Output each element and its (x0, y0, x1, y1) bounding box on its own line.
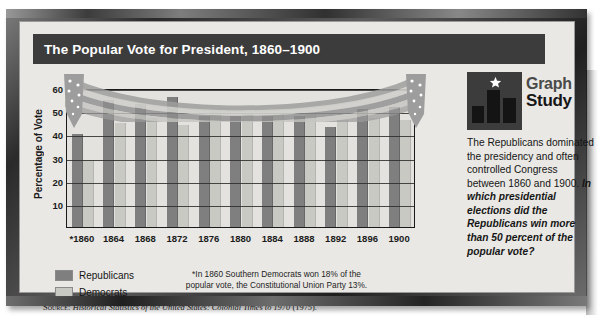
legend-item-democrats: Democrats (55, 285, 165, 299)
logo-bar-3 (503, 98, 516, 123)
bar-democrats-1892 (337, 120, 348, 227)
bar-group-1880 (230, 90, 252, 227)
y-tick-20: 20 (47, 176, 63, 187)
bar-democrats-1900 (400, 120, 411, 227)
sidebar-question-text: In which presidential elections did the … (467, 178, 591, 257)
bar-group-1888 (294, 90, 316, 227)
sidebar-body-text: The Republicans dominated the presidency… (467, 137, 594, 189)
logo-bar-1 (472, 106, 484, 123)
y-axis-label: Percentage of Vote (31, 94, 45, 214)
bar-republicans-1860 (72, 134, 83, 227)
x-label-1872: 1872 (166, 233, 187, 244)
legend-label-democrats: Democrats (79, 287, 127, 298)
legend-swatch-republicans (55, 270, 73, 281)
bar-republicans-1884 (262, 116, 273, 227)
bar-group-1884 (262, 90, 284, 227)
legend-swatch-democrats (55, 287, 73, 298)
bar-democrats-1888 (305, 113, 316, 227)
source-line: Source: Historical Statistics of the Uni… (43, 302, 443, 312)
x-label-1888: 1888 (293, 233, 314, 244)
footnote-line-1: *In 1860 Southern Democrats won 18% of t… (192, 269, 361, 279)
logo-icon-box (467, 72, 522, 130)
bar-republicans-1872 (167, 97, 178, 227)
page-surface: The Popular Vote for President, 1860–190… (19, 21, 575, 293)
bar-republicans-1888 (294, 116, 305, 227)
plot-area (66, 89, 415, 228)
bar-group-1876 (199, 90, 221, 227)
bar-republicans-1896 (357, 109, 368, 227)
source-label: Source: (43, 303, 70, 312)
bar-democrats-1884 (273, 113, 284, 227)
bar-democrats-1864 (115, 123, 126, 227)
legend-item-republicans: Republicans (55, 268, 165, 282)
bar-group-1900 (389, 90, 411, 227)
x-label-1860: *1860 (69, 233, 94, 244)
source-citation: Historical Statistics of the United Stat… (73, 303, 291, 312)
bar-group-1860 (72, 90, 94, 227)
star-icon (489, 76, 502, 89)
bar-democrats-1868 (147, 118, 158, 227)
legend-label-republicans: Republicans (79, 270, 134, 281)
logo-word-graph: Graph (526, 76, 598, 92)
bar-republicans-1864 (103, 100, 114, 227)
chart: Percentage of Vote 102030405060 *1860186… (33, 70, 458, 255)
x-label-1900: 1900 (389, 233, 410, 244)
bar-democrats-1880 (242, 113, 253, 227)
legend: Republicans Democrats (55, 268, 165, 302)
bar-group-1864 (103, 90, 125, 227)
bar-group-1896 (357, 90, 379, 227)
graph-study-sidebar: Graph Study The Republicans dominated th… (466, 70, 598, 315)
x-label-1896: 1896 (357, 233, 378, 244)
bar-republicans-1868 (135, 104, 146, 227)
page-title: The Popular Vote for President, 1860–190… (33, 42, 320, 57)
bar-republicans-1876 (199, 116, 210, 227)
x-label-1864: 1864 (103, 233, 124, 244)
y-tick-40: 40 (47, 130, 63, 141)
bar-group-1872 (167, 90, 189, 227)
bar-series-container (67, 90, 414, 227)
bar-group-1868 (135, 90, 157, 227)
graph-study-logo: Graph Study (466, 70, 598, 132)
x-label-1884: 1884 (262, 233, 283, 244)
source-year: (1975). (293, 303, 317, 312)
graph-study-wordmark: Graph Study (526, 76, 598, 110)
bar-democrats-1876 (210, 109, 221, 227)
logo-word-study: Study (526, 92, 598, 109)
bar-democrats-1860 (83, 160, 94, 227)
footnote-line-2: popular vote, the Constitutional Union P… (169, 280, 384, 291)
sidebar-text: The Republicans dominated the presidency… (467, 136, 597, 258)
bar-republicans-1880 (230, 116, 241, 227)
outer-frame: The Popular Vote for President, 1860–190… (6, 9, 587, 306)
y-tick-60: 60 (47, 84, 63, 95)
bar-republicans-1900 (389, 107, 400, 227)
bar-group-1892 (325, 90, 347, 227)
y-tick-10: 10 (47, 199, 63, 210)
x-axis-labels: *186018641868187218761880188418881892189… (66, 233, 415, 247)
x-label-1876: 1876 (198, 233, 219, 244)
y-tick-50: 50 (47, 107, 63, 118)
chart-footnote: *In 1860 Southern Democrats won 18% of t… (169, 269, 384, 292)
x-label-1892: 1892 (325, 233, 346, 244)
bar-democrats-1896 (369, 118, 380, 227)
chart-title-bar: The Popular Vote for President, 1860–190… (33, 34, 545, 64)
x-label-1880: 1880 (230, 233, 251, 244)
graph-study-page: The Popular Vote for President, 1860–190… (0, 0, 601, 321)
y-tick-30: 30 (47, 153, 63, 164)
bar-democrats-1872 (178, 125, 189, 227)
bar-republicans-1892 (325, 127, 336, 227)
x-label-1868: 1868 (135, 233, 156, 244)
logo-bar-2 (487, 90, 500, 123)
